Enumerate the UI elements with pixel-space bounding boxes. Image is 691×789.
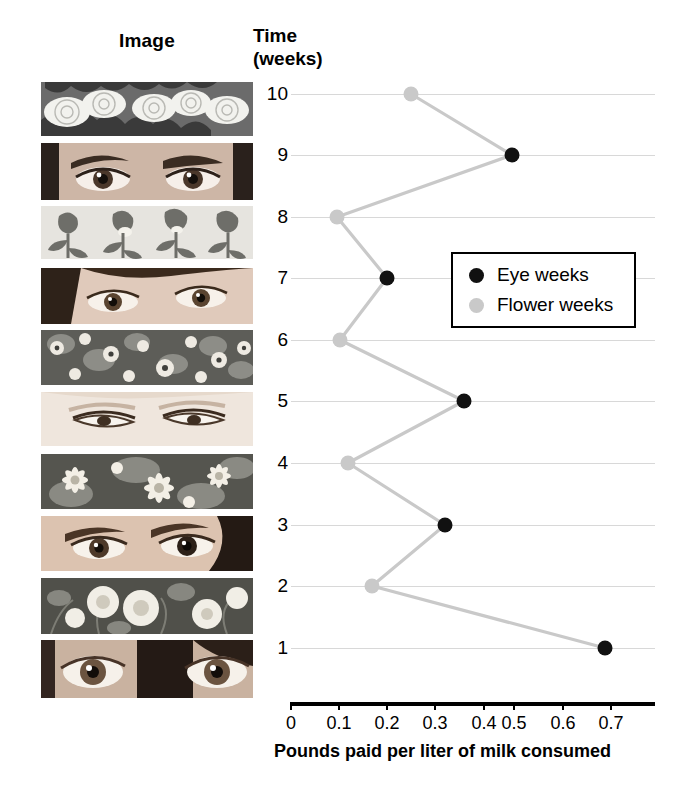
y-tick-label-2: 2: [248, 575, 288, 597]
datapoint-week-5[interactable]: [457, 394, 472, 409]
datapoint-week-3[interactable]: [438, 518, 453, 533]
x-tick-label-0.1: 0.1: [326, 713, 351, 734]
y-tick-label-5: 5: [248, 390, 288, 412]
y-tick-label-6: 6: [248, 329, 288, 351]
datapoint-week-10[interactable]: [404, 87, 419, 102]
gridline-week-10: [291, 94, 655, 95]
datapoint-week-2[interactable]: [365, 579, 380, 594]
gridline-week-2: [291, 586, 655, 587]
x-axis-title: Pounds paid per liter of milk consumed: [274, 741, 611, 762]
figure-root: Image: [0, 0, 691, 789]
x-tick-label-0.2: 0.2: [374, 713, 399, 734]
datapoint-week-1[interactable]: [598, 641, 613, 656]
legend-marker-flower-weeks: [469, 298, 484, 313]
datapoint-week-9[interactable]: [505, 148, 520, 163]
chart-plot-area: Time(weeks) 10 9 8 7 6 5 4 3 2 1: [0, 0, 691, 789]
legend-label-flower-weeks: Flower weeks: [497, 294, 613, 316]
chart-legend: Eye weeks Flower weeks: [451, 252, 636, 328]
y-tick-label-1: 1: [248, 637, 288, 659]
x-tick-mark-0.3: [434, 702, 436, 710]
datapoint-week-7[interactable]: [380, 271, 395, 286]
x-tick-mark-0.4: [483, 702, 485, 710]
gridline-week-8: [291, 217, 655, 218]
y-tick-label-9: 9: [248, 144, 288, 166]
y-tick-label-7: 7: [248, 267, 288, 289]
x-tick-label-0.6: 0.6: [550, 713, 575, 734]
legend-entry-eye-weeks: Eye weeks: [469, 264, 589, 286]
x-tick-mark-0.6: [562, 702, 564, 710]
x-tick-mark-0.5: [513, 702, 515, 710]
x-tick-mark-0.7: [610, 702, 612, 710]
x-tick-label-0.5: 0.5: [501, 713, 526, 734]
legend-label-eye-weeks: Eye weeks: [497, 264, 589, 286]
x-tick-label-0.4: 0.4: [471, 713, 496, 734]
gridline-week-5: [291, 401, 655, 402]
datapoint-week-4[interactable]: [341, 456, 356, 471]
y-tick-label-8: 8: [248, 206, 288, 228]
datapoint-week-8[interactable]: [330, 210, 345, 225]
x-tick-mark-0.2: [386, 702, 388, 710]
data-series-line: [0, 0, 691, 789]
x-tick-label-0.7: 0.7: [598, 713, 623, 734]
x-tick-mark-0: [290, 702, 292, 710]
x-axis-line: [291, 702, 655, 706]
datapoint-week-6[interactable]: [333, 333, 348, 348]
y-axis-title: Time(weeks): [253, 24, 323, 70]
legend-marker-eye-weeks: [469, 268, 484, 283]
x-tick-label-0.3: 0.3: [422, 713, 447, 734]
y-tick-label-10: 10: [248, 83, 288, 105]
x-tick-label-0: 0: [286, 713, 296, 734]
y-axis-title-line2: (weeks): [253, 48, 323, 69]
y-tick-label-4: 4: [248, 452, 288, 474]
y-tick-label-3: 3: [248, 514, 288, 536]
gridline-week-9: [291, 155, 655, 156]
gridline-week-3: [291, 525, 655, 526]
x-tick-mark-0.1: [338, 702, 340, 710]
y-axis-title-line1: Time: [253, 25, 297, 46]
legend-entry-flower-weeks: Flower weeks: [469, 294, 613, 316]
